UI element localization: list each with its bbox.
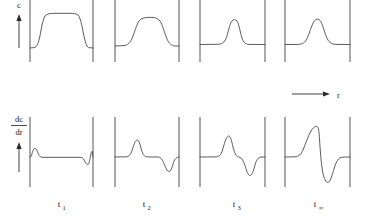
time-label-t1-subscript: 1 [62, 204, 65, 211]
gradient-curve-tinf [285, 126, 350, 182]
concentration-curve-t2 [115, 17, 179, 46]
time-label-t3-subscript: 3 [237, 204, 240, 211]
y-axis-bottom-arrowhead [16, 142, 21, 149]
figure-svg: c r dc dr [0, 0, 365, 223]
concentration-curve-t1 [30, 13, 93, 48]
y-axis-top-arrowhead [16, 14, 21, 21]
gradient-curve-t1 [30, 149, 93, 165]
time-label-tinf: t ∞ [314, 199, 324, 211]
concentration-curve-t3 [200, 20, 265, 45]
time-label-t2-subscript: 2 [147, 204, 150, 211]
x-axis-r [292, 92, 330, 97]
figure-container: c r dc dr [0, 0, 365, 223]
y-axis-top-label: c [17, 0, 21, 10]
concentration-curve-tinf [285, 19, 350, 44]
time-label-t2: t 2 [143, 199, 151, 211]
x-axis-r-label: r [337, 90, 340, 100]
gradient-curve-t3 [200, 136, 265, 176]
time-label-tinf-base: t [314, 199, 317, 209]
time-label-t3-base: t [233, 199, 236, 209]
time-label-t1-base: t [58, 199, 61, 209]
y-axis-bottom-numerator: dc [15, 114, 23, 124]
time-label-tinf-subscript: ∞ [319, 204, 324, 211]
y-axis-bottom-denominator: dr [15, 127, 22, 137]
y-axis-top [16, 14, 21, 48]
time-label-t2-base: t [143, 199, 146, 209]
y-axis-bottom [16, 142, 21, 172]
gradient-curve-t2 [115, 140, 179, 172]
time-label-t1: t 1 [58, 199, 66, 211]
x-axis-r-arrowhead [323, 92, 330, 97]
time-label-t3: t 3 [233, 199, 241, 211]
